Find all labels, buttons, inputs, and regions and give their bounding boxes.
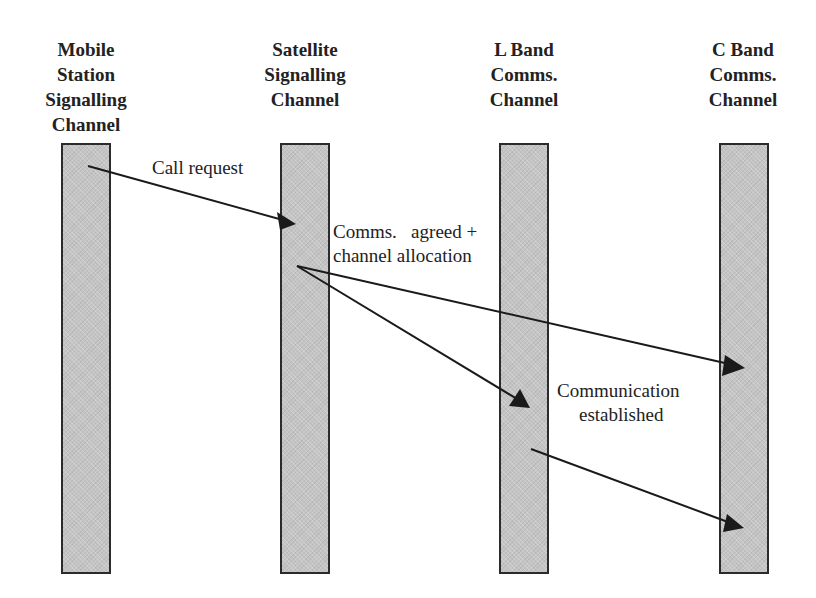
- message-arrows: [0, 0, 816, 598]
- arrowhead-icon: [277, 212, 296, 230]
- label-comms-agreed-line2: channel allocation: [333, 244, 472, 268]
- arrowhead-icon: [723, 514, 744, 532]
- arrowhead-icon: [722, 355, 745, 376]
- arrow-satellite-to-l-band: [297, 266, 530, 408]
- arrow-satellite-to-c-band: [297, 266, 745, 376]
- label-comm-established-line1: Communication: [557, 379, 679, 403]
- arrowhead-icon: [509, 389, 530, 408]
- label-comm-established-line2: established: [579, 403, 663, 427]
- arrow-l-band-to-c-band: [531, 449, 744, 532]
- label-comms-agreed-line1: Comms. agreed +: [333, 220, 477, 244]
- label-call-request: Call request: [152, 156, 243, 180]
